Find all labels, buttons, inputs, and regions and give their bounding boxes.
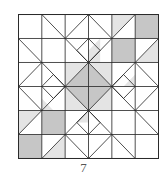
dark-shaded-region [112,38,135,62]
dark-shaded-region [18,135,41,159]
quilt-grid-graphic [18,14,159,159]
figure-caption: 7 [0,160,167,176]
quilt-diagram [18,14,159,159]
dark-shaded-region [42,111,65,135]
dark-shaded-region [135,14,158,38]
